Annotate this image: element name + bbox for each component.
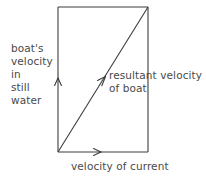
vector-diagram: boat's velocity in still water resultant… [0,0,206,182]
resultant-velocity-label: resultant velocity of boat [109,69,202,95]
velocity-of-current-label: velocity of current [71,160,169,173]
boat-velocity-label: boat's velocity in still water [11,42,53,107]
